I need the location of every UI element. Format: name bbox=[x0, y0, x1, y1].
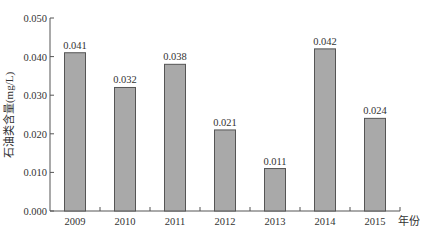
y-tick-label: 0.050 bbox=[23, 13, 47, 24]
x-tick-label: 2011 bbox=[165, 216, 186, 227]
bar bbox=[165, 64, 186, 211]
bar bbox=[365, 118, 386, 211]
bar bbox=[215, 130, 236, 211]
x-tick-label: 2013 bbox=[265, 216, 286, 227]
x-axis-label: 年份 bbox=[398, 214, 420, 227]
y-axis-label: 石油类含量(mg/L) bbox=[2, 72, 16, 158]
x-tick-label: 2010 bbox=[115, 216, 136, 227]
bar-value-label: 0.011 bbox=[263, 156, 286, 167]
y-tick-label: 0.000 bbox=[23, 206, 47, 217]
bar-value-label: 0.038 bbox=[163, 51, 187, 62]
y-tick-label: 0.010 bbox=[23, 167, 47, 178]
x-tick-label: 2012 bbox=[215, 216, 236, 227]
bar-value-label: 0.021 bbox=[213, 117, 237, 128]
y-tick-label: 0.030 bbox=[23, 90, 47, 101]
bar bbox=[265, 169, 286, 211]
bars: 0.0410.0320.0380.0210.0110.0420.024 bbox=[63, 36, 387, 211]
x-tick-label: 2015 bbox=[365, 216, 386, 227]
y-axis: 0.0000.0100.0200.0300.0400.050 bbox=[23, 13, 54, 217]
bar bbox=[315, 49, 336, 211]
x-tick-label: 2009 bbox=[65, 216, 86, 227]
bar bbox=[115, 87, 136, 211]
bar-value-label: 0.032 bbox=[113, 74, 137, 85]
y-tick-label: 0.020 bbox=[23, 129, 47, 140]
y-tick-label: 0.040 bbox=[23, 52, 47, 63]
bar-value-label: 0.041 bbox=[63, 40, 87, 51]
bar-value-label: 0.042 bbox=[313, 36, 337, 47]
bar-chart: 0.0000.0100.0200.0300.0400.050 200920102… bbox=[0, 0, 430, 241]
bar-value-label: 0.024 bbox=[363, 105, 387, 116]
x-tick-label: 2014 bbox=[315, 216, 337, 227]
chart-canvas: 0.0000.0100.0200.0300.0400.050 200920102… bbox=[0, 0, 430, 241]
bar bbox=[65, 53, 86, 211]
